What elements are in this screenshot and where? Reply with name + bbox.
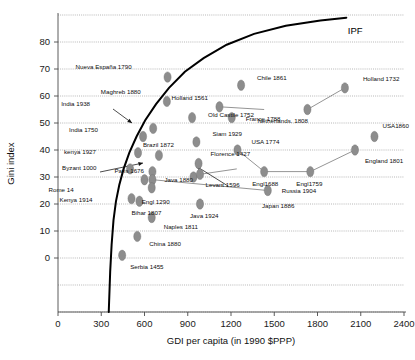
point-label: Java 1880 — [164, 176, 193, 183]
point-label: Rome 14 — [49, 186, 75, 193]
y-tick-label: 10 — [39, 225, 50, 236]
data-marker — [128, 193, 135, 203]
point-label: Paris 1676 — [114, 167, 144, 174]
data-marker — [307, 166, 314, 176]
x-tick-label: 900 — [180, 318, 196, 329]
data-marker — [351, 145, 358, 155]
point-label: Holland 1561 — [171, 94, 208, 101]
data-marker — [196, 169, 203, 179]
y-axis-title: Gini index — [5, 142, 16, 184]
data-marker — [119, 250, 126, 260]
data-marker — [261, 166, 268, 176]
chart-svg: Nueva España 1790Maghreb 1880Chile 1861H… — [0, 0, 415, 360]
point-label: Java 1924 — [190, 212, 219, 219]
x-tick-label: 2100 — [350, 318, 371, 329]
data-marker — [264, 185, 271, 195]
point-label: Japan 1886 — [262, 202, 295, 209]
y-tick-label: 70 — [39, 63, 50, 74]
axes-group — [54, 13, 406, 316]
point-label: Russia 1904 — [282, 187, 317, 194]
x-tick-label: 1800 — [307, 318, 328, 329]
x-tick-label: 1500 — [264, 318, 285, 329]
point-label: kenya 1927 — [64, 148, 97, 155]
data-marker — [164, 72, 171, 82]
point-label: Serbia 1455 — [130, 263, 164, 270]
y-tick-label: 0 — [45, 252, 50, 263]
data-marker — [139, 131, 146, 141]
data-marker — [304, 104, 311, 114]
point-label: Brazil 1872 — [143, 141, 175, 148]
x-tick-label: 600 — [137, 318, 153, 329]
data-marker — [155, 150, 162, 160]
connector-line — [307, 88, 344, 110]
x-tick-label: 1200 — [220, 318, 241, 329]
data-marker — [237, 80, 244, 90]
point-label: Bihar 1807 — [131, 209, 161, 216]
arrowhead — [127, 119, 132, 123]
point-label: Byzant 1000 — [62, 164, 97, 171]
point-label: Nueva España 1790 — [76, 63, 133, 70]
data-marker — [148, 183, 155, 193]
point-label: Naples 1811 — [164, 223, 199, 230]
data-marker — [371, 131, 378, 141]
data-marker — [134, 231, 141, 241]
point-label: Siam 1929 — [212, 130, 242, 137]
point-label: USA 1774 — [251, 138, 279, 145]
point-label: Engl1688 — [252, 180, 279, 187]
point-label: Kenya 1914 — [60, 196, 94, 203]
point-labels-group: Nueva España 1790Maghreb 1880Chile 1861H… — [49, 63, 410, 270]
y-tick-label: 40 — [39, 144, 50, 155]
x-tick-label: 0 — [55, 318, 60, 329]
data-marker — [341, 83, 348, 93]
x-tick-label: 300 — [93, 318, 109, 329]
arrowhead — [138, 162, 143, 166]
y-tick-label: 30 — [39, 171, 50, 182]
point-label: USA1860 — [382, 122, 409, 129]
data-marker — [196, 199, 203, 209]
data-marker — [163, 96, 170, 106]
point-label: Chile 1861 — [257, 74, 287, 81]
point-label: India 1750 — [69, 126, 98, 133]
point-label: England 1801 — [365, 157, 404, 164]
point-label: India 1938 — [61, 100, 90, 107]
data-marker — [141, 175, 148, 185]
data-marker — [195, 158, 202, 168]
data-marker — [150, 123, 157, 133]
point-label: Levant 1596 — [206, 181, 241, 188]
x-axis-title: GDI per capita (in 1990 $PPP) — [167, 335, 295, 346]
y-tick-label: 20 — [39, 198, 50, 209]
point-label: Engl 1290 — [142, 198, 170, 205]
y-tick-label: 60 — [39, 90, 50, 101]
point-label: Old Castile 1752 — [208, 111, 254, 118]
ipf-curve-label: IPF — [348, 25, 363, 36]
y-tick-label: 80 — [39, 36, 50, 47]
connector-line — [219, 107, 264, 110]
data-markers-group — [119, 72, 379, 261]
point-label: Holland 1732 — [363, 75, 400, 82]
point-label: Maghreb 1880 — [101, 88, 141, 95]
gini-scatter-chart: Nueva España 1790Maghreb 1880Chile 1861H… — [0, 0, 415, 360]
data-marker — [134, 148, 141, 158]
point-label: China 1880 — [149, 240, 181, 247]
y-tick-label: 50 — [39, 117, 50, 128]
data-marker — [193, 137, 200, 147]
point-label: Florence 1427 — [211, 150, 251, 157]
data-marker — [188, 112, 195, 122]
x-tick-label: 2400 — [393, 318, 414, 329]
